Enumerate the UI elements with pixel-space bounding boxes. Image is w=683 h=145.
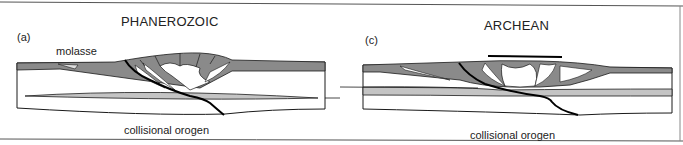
panel-c-diagram	[340, 56, 672, 115]
panel-a-id: (a)	[17, 32, 30, 43]
panel-c-core-lobe	[501, 64, 536, 87]
panel-a-molasse-label: molasse	[56, 46, 97, 57]
panel-a-title: PHANEROZOIC	[121, 15, 219, 28]
panel-c-id: (c)	[365, 35, 378, 46]
panel-c-erosion-level-bar	[488, 56, 562, 57]
panel-c-title: ARCHEAN	[484, 19, 549, 32]
panel-a-caption: collisional orogen	[124, 125, 209, 136]
panel-c-caption: collisional orogen	[470, 130, 555, 141]
bottom-frame-line	[0, 139, 683, 141]
cross-section-diagrams	[0, 0, 683, 145]
figure-canvas: PHANEROZOIC (a) molasse collisional orog…	[0, 0, 683, 145]
top-frame-line	[0, 2, 683, 6]
panel-a-diagram	[17, 53, 340, 115]
